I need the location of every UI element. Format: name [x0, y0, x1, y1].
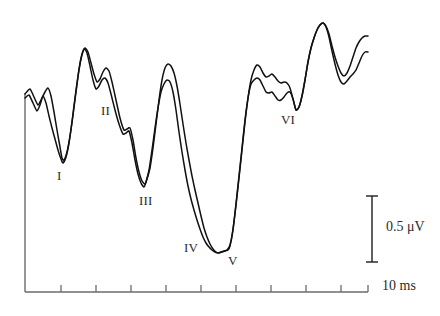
horizontal-scale-label: 10 ms — [382, 278, 416, 294]
vertical-scale-label: 0.5 μV — [386, 219, 425, 235]
abr-waveform-figure: IIIIIIIVVVI 0.5 μV 10 ms — [0, 0, 440, 316]
trace-group — [25, 23, 368, 253]
peak-label-v: V — [228, 253, 238, 269]
peak-label-iv: IV — [184, 240, 198, 256]
peak-label-vi: VI — [281, 112, 295, 128]
peak-label-iii: III — [139, 193, 153, 209]
scale-bar-group — [366, 196, 378, 262]
peak-label-ii: II — [101, 103, 110, 119]
peak-label-i: I — [57, 168, 62, 184]
waveform-trace-trace-b — [25, 23, 368, 253]
axis-group — [25, 93, 368, 292]
waveform-plot — [0, 0, 440, 316]
